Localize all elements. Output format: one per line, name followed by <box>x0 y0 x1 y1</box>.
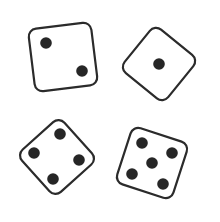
pip <box>157 178 169 190</box>
die-face <box>17 117 97 197</box>
die-four <box>17 117 97 197</box>
pip <box>40 37 52 49</box>
pip <box>28 147 40 159</box>
pip <box>73 154 85 166</box>
pip <box>47 173 59 185</box>
die-face <box>28 22 98 92</box>
pip <box>166 147 178 159</box>
pip <box>126 168 138 180</box>
pip <box>153 58 165 70</box>
pip <box>54 128 66 140</box>
pip <box>136 137 148 149</box>
dice-scene <box>0 0 220 222</box>
die-two <box>28 22 98 92</box>
pip <box>76 65 88 77</box>
die-five <box>115 126 189 200</box>
die-one <box>120 25 199 104</box>
pip <box>146 157 158 169</box>
